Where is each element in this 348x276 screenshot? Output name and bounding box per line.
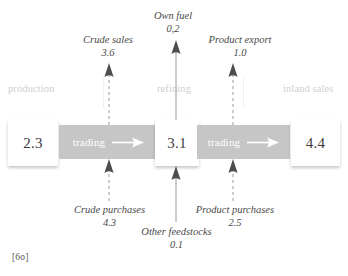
flow-value-product-purchases: 2.5 xyxy=(173,216,297,229)
stock-box-production: 2.3 xyxy=(8,120,58,166)
stock-box-inland-sales: 4.4 xyxy=(291,120,340,166)
section-divider-right xyxy=(243,78,244,108)
outflow-arrow-product-export xyxy=(225,63,241,125)
stock-value-refining: 3.1 xyxy=(167,135,187,152)
supply-chain-flow-diagram: production refining inland sales Crude s… xyxy=(0,0,348,276)
process-bar-crude-trading: trading xyxy=(59,125,158,159)
process-label-crude-trading: trading xyxy=(73,136,106,148)
flow-name-crude-purchases: Crude purchases xyxy=(51,203,168,216)
flow-value-crude-sales: 3.6 xyxy=(58,46,158,59)
flow-value-other-feedstocks: 0.1 xyxy=(121,238,232,251)
section-label-inland-sales: inland sales xyxy=(283,83,333,94)
figure-caption: [6o] xyxy=(12,252,29,262)
flow-label-own-fuel: Own fuel 0,2 xyxy=(133,9,213,35)
stock-value-inland-sales: 4.4 xyxy=(306,135,326,152)
flow-label-product-export: Product export 1.0 xyxy=(184,33,296,59)
outflow-arrow-own-fuel xyxy=(168,40,184,120)
flow-name-product-export: Product export xyxy=(184,33,296,46)
flow-name-product-purchases: Product purchases xyxy=(173,203,297,216)
section-label-production: production xyxy=(8,83,55,94)
stock-value-production: 2.3 xyxy=(23,135,43,152)
stock-box-refining: 3.1 xyxy=(155,120,199,166)
flow-value-product-export: 1.0 xyxy=(184,46,296,59)
flow-name-own-fuel: Own fuel xyxy=(133,9,213,22)
process-label-product-trading: trading xyxy=(208,136,241,148)
right-arrow-icon-crude-trading xyxy=(112,137,144,148)
process-bar-product-trading: trading xyxy=(197,125,290,159)
flow-label-crude-sales: Crude sales 3.6 xyxy=(58,33,158,59)
right-arrow-icon-product-trading xyxy=(247,137,279,148)
inflow-arrow-product-purchases xyxy=(225,159,241,201)
outflow-arrow-crude-sales xyxy=(101,63,117,125)
inflow-arrow-crude-purchases xyxy=(101,159,117,201)
flow-label-product-purchases: Product purchases 2.5 xyxy=(173,203,297,229)
